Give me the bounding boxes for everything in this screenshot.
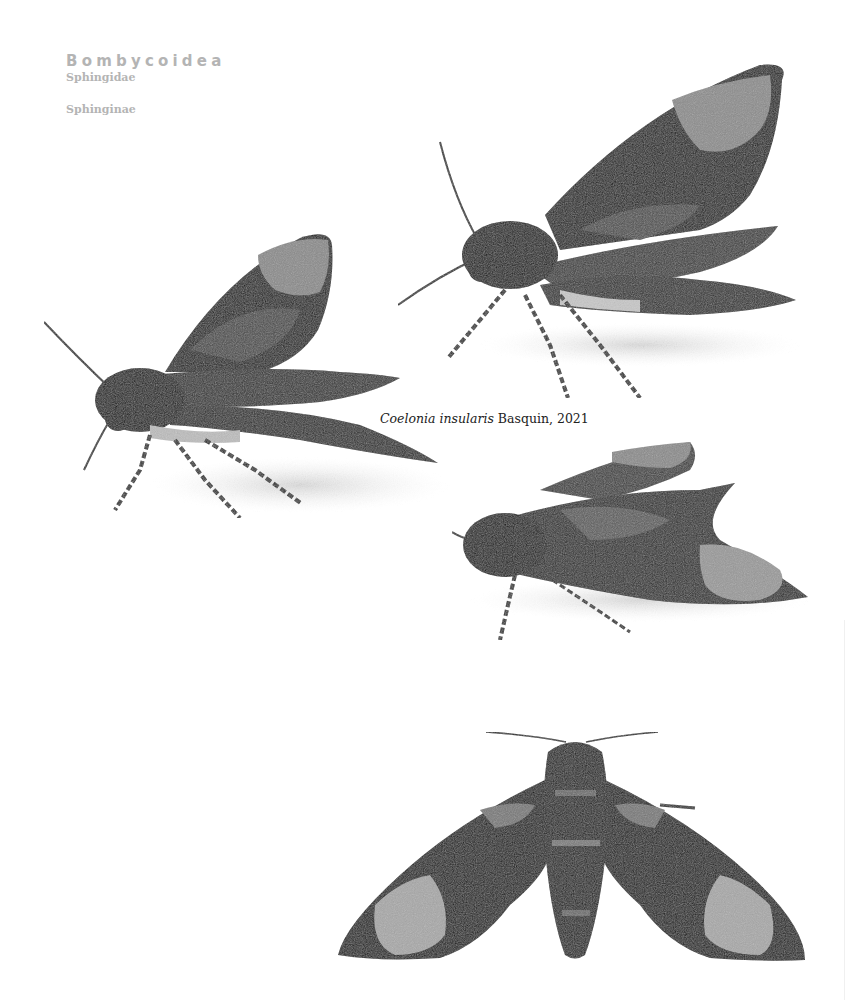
species-caption: Coelonia insularis Basquin, 2021: [380, 411, 589, 426]
page-edge-line: [844, 620, 845, 1000]
species-name: Coelonia insularis: [380, 411, 494, 426]
specimen-plate: [0, 0, 853, 1007]
species-author-year: Basquin, 2021: [498, 411, 589, 426]
moth-specimen-middle: [44, 234, 450, 518]
moth-specimen-dorsal: [338, 732, 805, 961]
moth-specimen-upper: [398, 65, 800, 398]
moth-specimen-resting: [452, 442, 810, 640]
